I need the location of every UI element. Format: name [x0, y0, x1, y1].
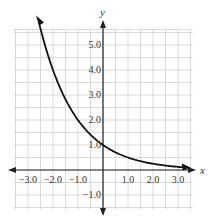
y-tick-label: 4.0: [89, 64, 102, 75]
data-curve: [36, 15, 191, 170]
y-axis-label: y: [99, 6, 105, 18]
x-tick-label: −2.0: [44, 174, 62, 185]
x-tick-label: 3.0: [172, 174, 185, 185]
y-tick-label: −1.0: [83, 189, 101, 200]
y-tick-label: 2.0: [89, 114, 102, 125]
axes: [8, 20, 196, 216]
y-tick-label: 3.0: [89, 89, 102, 100]
x-tick-label: 2.0: [147, 174, 160, 185]
y-tick-label: 5.0: [89, 39, 102, 50]
x-tick-label: −1.0: [69, 174, 87, 185]
x-axis-label: x: [199, 164, 205, 176]
x-tick-label: 1.0: [122, 174, 135, 185]
x-tick-labels: −3.0−2.0−1.01.02.03.0: [19, 174, 184, 185]
y-tick-label: 1.0: [89, 139, 102, 150]
exponential-graph: −3.0−2.0−1.01.02.03.0 5.04.03.02.01.0−1.…: [0, 0, 212, 222]
x-tick-label: −3.0: [19, 174, 37, 185]
